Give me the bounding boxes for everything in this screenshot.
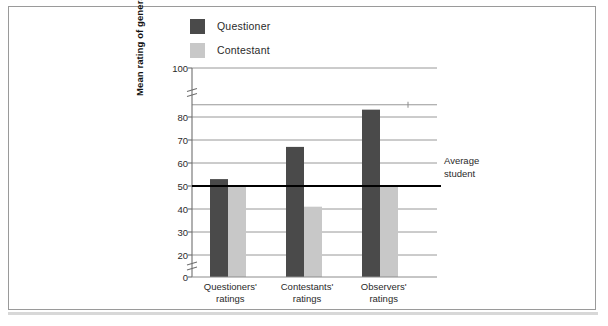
bar-questioner-2 — [362, 110, 380, 277]
bar-questioner-1 — [286, 147, 304, 277]
bar-contestant-1 — [304, 207, 322, 277]
figure-canvas: Questioner Contestant Mean rating of gen… — [0, 0, 608, 326]
bar-contestant-0 — [228, 186, 246, 277]
bar-questioner-0 — [210, 179, 228, 277]
bar-series — [210, 110, 398, 277]
chart-graphics — [0, 0, 608, 326]
bar-contestant-2 — [380, 186, 398, 277]
x-axis-label-2: Observers'ratings — [345, 281, 422, 305]
average-student-line-1: Average — [444, 155, 479, 168]
x-axis-label-1: Contestants'ratings — [269, 281, 346, 305]
average-student-annotation: Average student — [444, 155, 479, 180]
y-axis-ticks — [188, 68, 192, 277]
x-axis-label-0: Questioners'ratings — [192, 281, 269, 305]
average-student-line-2: student — [444, 168, 479, 181]
x-axis-category-labels: Questioners'ratingsContestants'ratingsOb… — [192, 281, 422, 305]
plot-area: Mean rating of general knowledge 0203040… — [0, 0, 608, 326]
